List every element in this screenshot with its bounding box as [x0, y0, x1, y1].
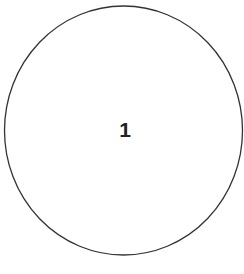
circle-label: 1 — [105, 115, 145, 145]
